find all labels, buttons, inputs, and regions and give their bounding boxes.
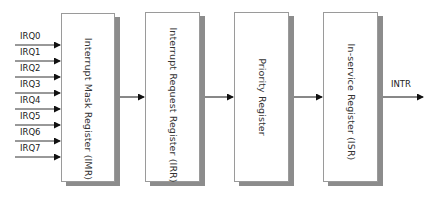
irr-block: Interrupt Request Register (IRR): [145, 12, 200, 182]
irr-label: Interrupt Request Register (IRR): [167, 28, 178, 183]
isr-block: In-service Register (ISR): [323, 12, 378, 182]
intr-output-label: INTR: [391, 79, 411, 89]
priority-register-label: Priority Register: [256, 58, 267, 136]
irq4-label: IRQ4: [20, 95, 41, 105]
irq1-label: IRQ1: [20, 47, 41, 57]
isr-label: In-service Register (ISR): [345, 44, 356, 161]
irq0-label: IRQ0: [20, 31, 41, 41]
irq5-label: IRQ5: [20, 111, 41, 121]
irq7-label: IRQ7: [20, 143, 41, 153]
interrupt-controller-diagram: IRQ0 IRQ1 IRQ2 IRQ3 IRQ4 IRQ5 IRQ6 IRQ7 …: [0, 0, 436, 197]
priority-register-block: Priority Register: [234, 12, 289, 182]
imr-block: Interrupt Mask Register (IMR): [61, 13, 115, 182]
irq6-label: IRQ6: [20, 127, 41, 137]
irq3-label: IRQ3: [20, 79, 41, 89]
irq2-label: IRQ2: [20, 63, 41, 73]
imr-label: Interrupt Mask Register (IMR): [83, 38, 94, 180]
